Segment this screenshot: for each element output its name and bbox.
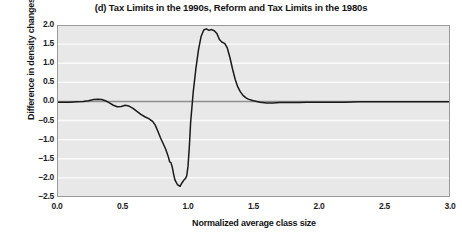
plot-svg (57, 25, 450, 197)
y-tick-label: −0.5 (28, 115, 54, 125)
x-tick-label: 1.0 (168, 201, 208, 211)
x-axis-label: Normalized average class size (57, 218, 451, 228)
y-tick-label: −1.5 (28, 153, 54, 163)
x-tick-label: 2.0 (299, 201, 339, 211)
y-tick-label: −2.0 (28, 172, 54, 182)
y-tick-label: −2.5 (28, 191, 54, 201)
x-tick-label: 0.5 (103, 201, 143, 211)
chart-title: (d) Tax Limits in the 1990s, Reform and … (0, 2, 462, 13)
y-tick-label: 0.5 (28, 76, 54, 86)
x-tick-label: 0.0 (37, 201, 77, 211)
x-tick-label: 2.5 (365, 201, 405, 211)
y-tick-label: 2.0 (28, 19, 54, 29)
x-tick-label: 1.5 (234, 201, 274, 211)
y-axis-ticks: 2.01.51.00.50.0−0.5−1.0−1.5−2.0−2.5 (24, 25, 54, 197)
plot-area (57, 25, 450, 197)
y-tick-label: 1.0 (28, 57, 54, 67)
x-axis-ticks: 0.00.51.01.52.02.53.0 (57, 201, 450, 215)
plot-background (57, 25, 450, 197)
x-tick-label: 3.0 (430, 201, 462, 211)
y-tick-label: −1.0 (28, 134, 54, 144)
y-tick-label: 0.0 (28, 95, 54, 105)
chart-figure: (d) Tax Limits in the 1990s, Reform and … (0, 0, 462, 237)
y-tick-label: 1.5 (28, 38, 54, 48)
